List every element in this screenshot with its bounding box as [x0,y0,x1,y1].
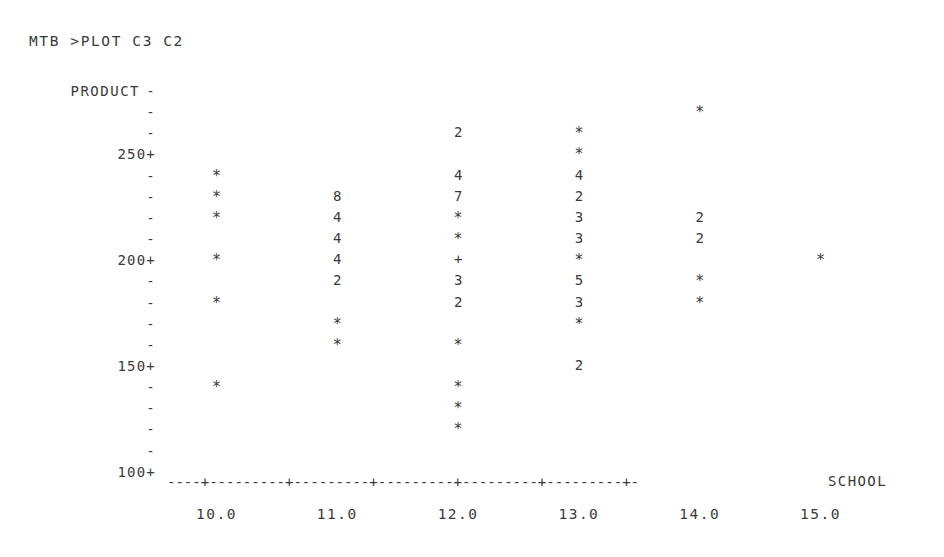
y-axis-tick: - [46,231,156,247]
y-axis-tick: - [46,443,156,459]
x-axis-title: SCHOOL [828,473,887,489]
x-axis-tick-label: 11.0 [302,506,372,522]
plot-point-marker: * [209,211,225,226]
plot-point-marker: * [209,380,225,395]
terminal-screen: MTB >PLOT C3 C2 PRODUCT --*-2*250+*-*44-… [0,0,944,557]
plot-point-marker: 4 [329,252,345,266]
y-axis-tick: - [46,83,156,99]
plot-point-marker: 4 [329,210,345,224]
y-axis-tick-labeled: 150+ [46,358,156,374]
plot-point-marker: * [209,253,225,268]
plot-point-marker: * [571,126,587,141]
plot-point-marker: 3 [571,295,587,309]
plot-point-marker: 4 [450,168,466,182]
y-axis-tick: - [46,189,156,205]
y-axis-tick: - [46,273,156,289]
plot-point-marker: * [692,296,708,311]
x-axis-line: ----+---------+---------+---------+-----… [167,474,639,490]
y-axis-tick-labeled: 250+ [46,146,156,162]
plot-point-marker: 2 [571,358,587,372]
plot-point-marker: * [571,147,587,162]
plot-point-marker: * [813,253,829,268]
x-axis-tick-label: 13.0 [544,506,614,522]
plot-point-marker: * [692,274,708,289]
plot-point-marker: * [329,317,345,332]
plot-point-marker: 2 [692,231,708,245]
plot-point-marker: 2 [329,273,345,287]
plot-point-marker: * [450,380,466,395]
x-axis-tick-label: 10.0 [182,506,252,522]
plot-point-marker: * [450,401,466,416]
plot-point-marker: 3 [450,273,466,287]
y-axis-tick: - [46,295,156,311]
y-axis-tick: - [46,379,156,395]
y-axis-tick: - [46,125,156,141]
y-axis-tick-labeled: 200+ [46,252,156,268]
x-axis-tick-label: 14.0 [665,506,735,522]
y-axis-tick: - [46,337,156,353]
plot-point-marker: 4 [571,168,587,182]
plot-point-marker: 2 [450,125,466,139]
plot-point-marker: * [209,190,225,205]
plot-point-marker: 3 [571,231,587,245]
x-axis-tick-label: 12.0 [423,506,493,522]
plot-point-marker: 2 [571,189,587,203]
plot-point-marker: * [209,296,225,311]
y-axis-tick: - [46,421,156,437]
plot-point-marker: 5 [571,273,587,287]
plot-point-marker: * [450,422,466,437]
plot-point-marker: 2 [692,210,708,224]
y-axis-tick-labeled: 100+ [46,464,156,480]
plot-point-marker: 8 [329,189,345,203]
plot-point-marker: 2 [450,295,466,309]
y-axis-tick: - [46,210,156,226]
y-axis-tick: - [46,400,156,416]
plot-point-marker: 3 [571,210,587,224]
plot-point-marker: * [209,169,225,184]
plot-point-marker: * [329,338,345,353]
plot-point-marker: 4 [329,231,345,245]
y-axis-tick: - [46,104,156,120]
plot-point-marker: * [692,105,708,120]
plot-point-marker: * [450,211,466,226]
plot-point-marker: * [450,232,466,247]
x-axis-tick-label: 15.0 [786,506,856,522]
y-axis-tick: - [46,316,156,332]
plot-point-marker: + [450,252,466,266]
y-axis-tick: - [46,168,156,184]
character-scatter-plot: PRODUCT --*-2*250+*-*44-*872-*4*32-4*322… [0,0,944,557]
plot-point-marker: 7 [450,189,466,203]
plot-point-marker: * [450,338,466,353]
plot-point-marker: * [571,253,587,268]
plot-point-marker: * [571,317,587,332]
